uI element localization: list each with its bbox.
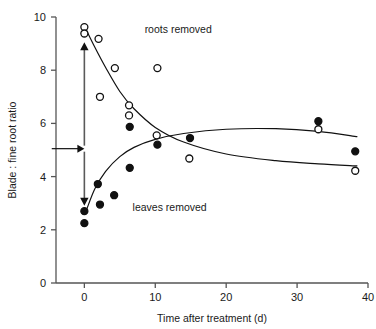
y-axis-title: Blade : fine root ratio [6,101,18,198]
data-point-leaves-removed [352,148,359,155]
y-tick-label: 2 [40,224,46,236]
x-tick-label: 20 [220,291,232,303]
data-point-leaves-removed [96,201,103,208]
y-tick-label: 6 [40,117,46,129]
data-point-roots-removed [154,65,161,72]
data-point-leaves-removed [187,135,194,142]
y-tick-label: 4 [40,171,46,183]
data-point-roots-removed [95,35,102,42]
y-tick-label: 8 [40,64,46,76]
data-point-roots-removed [81,30,88,37]
roots-removed-label: roots removed [145,23,212,35]
roots-removed-curve [86,29,358,166]
data-point-leaves-removed [315,118,322,125]
data-point-leaves-removed [111,192,118,199]
data-point-leaves-removed [81,208,88,215]
arrow-head-down [80,198,88,206]
data-point-roots-removed [111,65,118,72]
data-point-roots-removed [352,167,359,174]
x-tick-label: 40 [362,291,374,303]
data-point-roots-removed [186,155,193,162]
data-point-roots-removed [126,102,133,109]
leaves-removed-label: leaves removed [133,201,207,213]
x-tick-label: 0 [81,291,87,303]
data-point-roots-removed [153,132,160,139]
scatter-chart: 0102030400246810 Time after treatment (d… [0,0,376,329]
data-point-leaves-removed [154,141,161,148]
data-point-roots-removed [315,126,322,133]
data-point-leaves-removed [94,181,101,188]
data-points [81,24,359,227]
arrow-head-horizontal [77,145,84,153]
y-tick-label: 0 [40,277,46,289]
data-point-leaves-removed [81,220,88,227]
data-point-leaves-removed [126,123,133,130]
data-point-roots-removed [96,93,103,100]
chart-figure: 0102030400246810 Time after treatment (d… [0,0,376,329]
x-axis-title: Time after treatment (d) [157,312,267,324]
annotation-arrows [52,42,89,206]
data-point-leaves-removed [126,164,133,171]
x-tick-label: 30 [291,291,303,303]
data-point-roots-removed [126,112,133,119]
x-tick-label: 10 [149,291,161,303]
y-tick-label: 10 [34,11,46,23]
arrow-head-up [80,42,88,50]
